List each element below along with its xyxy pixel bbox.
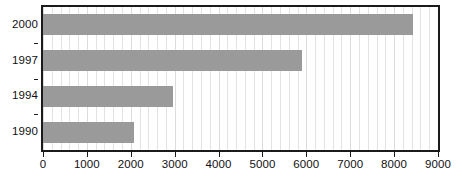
x-axis-tick-label: 5000 bbox=[237, 159, 287, 171]
x-axis-tick-mark bbox=[43, 152, 44, 157]
bar bbox=[43, 122, 134, 143]
y-axis-tick-mark bbox=[34, 43, 38, 44]
x-axis-tick-label: 9000 bbox=[413, 159, 462, 171]
bar-series bbox=[43, 7, 438, 150]
x-axis-tick-label: 6000 bbox=[281, 159, 331, 171]
x-axis-tick-label: 8000 bbox=[369, 159, 419, 171]
bar bbox=[43, 14, 413, 35]
y-axis-tick-mark bbox=[34, 79, 38, 80]
y-axis-tick-label: 2000 bbox=[2, 19, 38, 31]
y-axis-tick-label: 1997 bbox=[2, 55, 38, 67]
y-axis-tick-label: 1994 bbox=[2, 90, 38, 102]
y-axis-tick-label: 1990 bbox=[2, 126, 38, 138]
x-axis-tick-mark bbox=[438, 152, 439, 157]
y-axis-tick-mark bbox=[34, 114, 38, 115]
x-axis-tick-mark bbox=[175, 152, 176, 157]
x-axis-tick-label: 2000 bbox=[106, 159, 156, 171]
x-axis-tick-mark bbox=[131, 152, 132, 157]
x-axis-tick-mark bbox=[306, 152, 307, 157]
x-axis-tick-label: 0 bbox=[18, 159, 68, 171]
bar bbox=[43, 50, 302, 71]
bar bbox=[43, 86, 173, 107]
x-axis-tick-mark bbox=[87, 152, 88, 157]
x-axis-tick-label: 4000 bbox=[194, 159, 244, 171]
y-axis: 2000199719941990 bbox=[0, 5, 38, 152]
x-axis-tick-label: 7000 bbox=[325, 159, 375, 171]
x-axis-tick-label: 1000 bbox=[62, 159, 112, 171]
x-axis-tick-label: 3000 bbox=[150, 159, 200, 171]
gridline bbox=[438, 7, 439, 150]
x-axis-tick-mark bbox=[394, 152, 395, 157]
x-axis-tick-mark bbox=[262, 152, 263, 157]
plot-area bbox=[41, 5, 440, 152]
x-axis: 0100020003000400050006000700080009000 bbox=[41, 152, 442, 179]
x-axis-tick-mark bbox=[350, 152, 351, 157]
bar-chart: 2000199719941990 01000200030004000500060… bbox=[0, 0, 462, 179]
x-axis-tick-mark bbox=[219, 152, 220, 157]
